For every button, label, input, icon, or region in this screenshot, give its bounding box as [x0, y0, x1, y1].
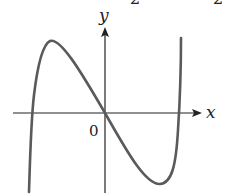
- origin-label: 0: [89, 122, 99, 140]
- clipped-text-1: 2: [130, 0, 140, 8]
- x-axis-label: x: [206, 102, 216, 122]
- clipped-text-2: 2: [213, 0, 223, 8]
- y-axis-label: y: [98, 5, 109, 25]
- graph-canvas: 2 2 x y 0: [0, 0, 228, 196]
